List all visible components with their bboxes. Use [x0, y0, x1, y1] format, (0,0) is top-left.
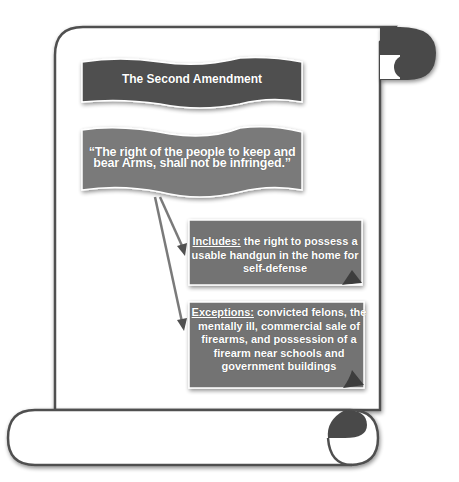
includes-label: Includes: — [192, 235, 240, 247]
exceptions-label: Exceptions: — [192, 306, 254, 318]
title-text: The Second Amendment — [82, 72, 302, 86]
quote-text: “The right of the people to keep and bea… — [82, 147, 302, 169]
exceptions-text: Exceptions: convicted felons, the mental… — [190, 306, 368, 374]
includes-text: Includes: the right to possess a usable … — [190, 235, 360, 276]
scroll-bottom-roll — [8, 410, 378, 465]
scroll-top-curl — [380, 27, 436, 80]
quote-line-2: bear Arms, shall not be infringed.” — [82, 158, 302, 169]
